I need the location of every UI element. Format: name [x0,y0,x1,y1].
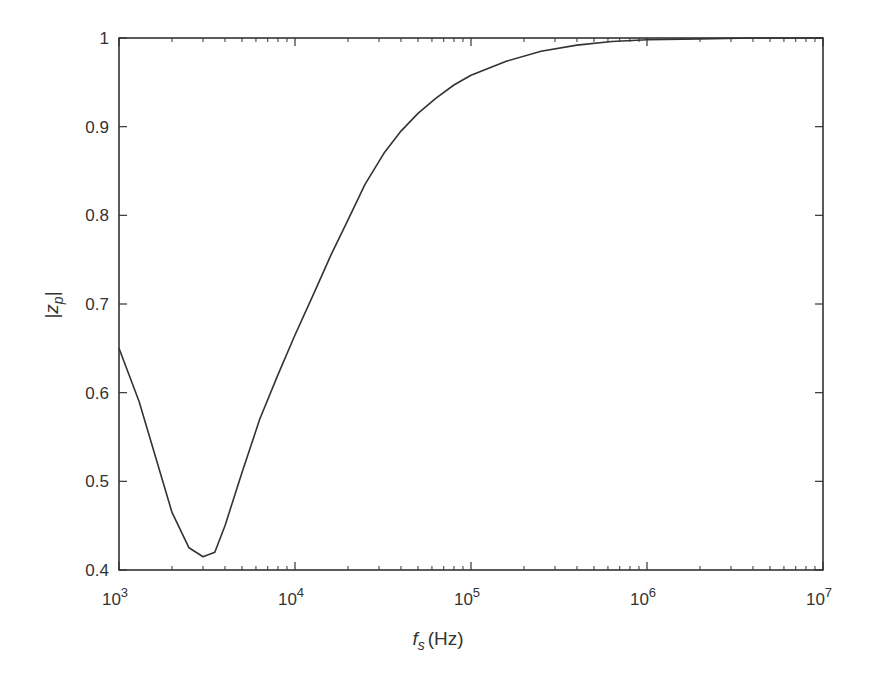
y-tick-label: 0.5 [85,472,109,491]
y-axis-title-bar-right: | [41,291,62,296]
major-ticks [119,38,823,570]
y-axis-title-main: z [41,304,62,315]
plot-frame [119,38,823,570]
x-axis-title-unit: (Hz) [428,628,464,649]
x-axis-title: fs(Hz) [412,628,463,653]
svg-text:|zp|: |zp| [41,291,66,318]
x-tick-label: 104 [278,585,304,609]
y-tick-label: 0.6 [85,384,109,403]
y-axis-title: |zp| [41,291,66,318]
x-tick-labels: 103104105106107 [102,585,832,609]
y-tick-label: 0.7 [85,295,109,314]
y-tick-labels: 0.40.50.60.70.80.91 [85,29,109,580]
x-axis-title-sub: s [418,637,425,653]
y-tick-label: 0.4 [85,561,109,580]
plot-border [119,38,823,570]
line-chart: 0.40.50.60.70.80.91 103104105106107 fs(H… [0,0,877,677]
x-tick-label: 105 [454,585,480,609]
y-axis-title-sub: p [50,296,66,305]
minor-ticks [172,38,815,570]
x-tick-label: 107 [806,585,832,609]
y-tick-label: 1 [100,29,109,48]
y-tick-label: 0.9 [85,118,109,137]
x-tick-label: 106 [630,585,656,609]
y-tick-label: 0.8 [85,206,109,225]
data-series-line [119,38,823,557]
x-tick-label: 103 [102,585,128,609]
